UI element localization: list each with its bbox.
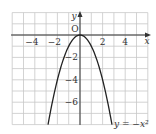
svg-text:−4: −4 <box>25 37 39 47</box>
y-axis-arrow-icon <box>78 11 83 17</box>
y-tick-labels: −2−4−6 <box>65 52 79 107</box>
equation-label: y = −x² <box>113 119 149 129</box>
svg-text:−2: −2 <box>48 37 61 47</box>
svg-text:2: 2 <box>100 37 106 47</box>
x-tick-labels: −4−224 <box>25 37 128 47</box>
y-axis-label: y <box>70 11 77 21</box>
origin-label: O <box>71 24 78 34</box>
svg-text:4: 4 <box>122 37 128 47</box>
parabola-chart: x y O −4−224 −2−4−6 y = −x² <box>0 0 156 134</box>
svg-text:−2: −2 <box>65 52 78 62</box>
svg-text:−4: −4 <box>65 75 79 85</box>
svg-text:−6: −6 <box>65 97 79 107</box>
x-axis-label: x <box>144 36 149 46</box>
